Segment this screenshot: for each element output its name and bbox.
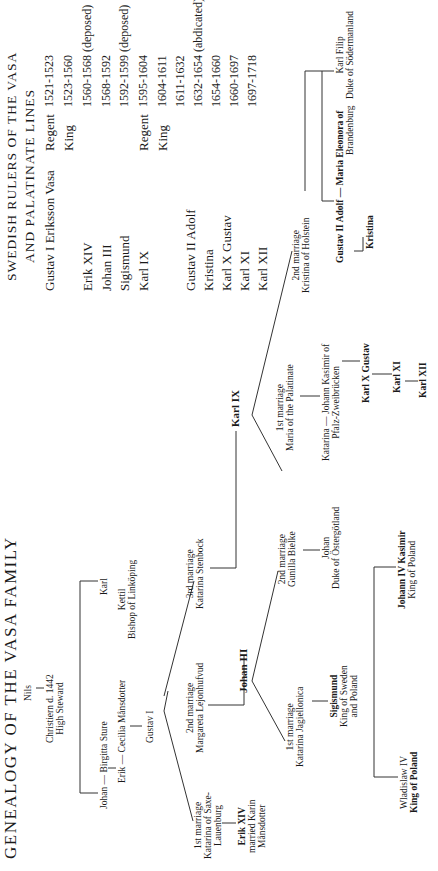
node-karl: Karl: [100, 578, 110, 595]
ruler-name: Kristina: [201, 249, 217, 291]
ruler-name: Erik XIV: [80, 242, 96, 291]
ruler-role: King: [155, 125, 171, 151]
ruler-years: 1521-1523: [42, 55, 57, 107]
ruler-name: Karl XI: [237, 251, 253, 291]
ruler-years: 1604-1611: [155, 55, 170, 107]
ruler-years: 1660-1697: [227, 55, 242, 107]
ruler-role: King: [61, 125, 77, 151]
node-johan-iii: Johan III: [238, 649, 250, 693]
node-christiern: Christiern d. 1442 High Steward: [46, 674, 66, 743]
ruler-name: Gustav I Eriksson Vasa: [42, 170, 58, 291]
ruler-name: Johan III: [99, 244, 115, 291]
node-nils: Nils: [24, 685, 34, 701]
node-erik-xiv: Erik XIV married Karin Månsdotter: [238, 799, 268, 853]
node-johan-duke: Johan Duke of Östergötland: [322, 507, 342, 589]
rulers-heading-1: SWEDISH RULERS OF THE VASA: [4, 52, 20, 281]
ruler-name: Gustav II Adolf: [183, 209, 199, 291]
node-kristina: Kristina: [366, 215, 376, 249]
node-karl-xi: Karl XI: [393, 361, 403, 393]
ruler-name: Karl XII: [255, 247, 271, 291]
ruler-years: 1632-1654 (abdicated): [191, 0, 206, 107]
node-karl-marriage-2: 2nd marriage Kristina of Holstein: [292, 218, 312, 293]
node-karl-marriage-1: 1st marriage Maria of the Palatinate: [276, 364, 296, 451]
node-gustav-marriage-3: 3rd marriage Katarina Stenbock: [186, 539, 206, 609]
ruler-years: 1611-1632: [173, 55, 188, 107]
ruler-name: Sigismund: [117, 235, 133, 291]
node-sigismund: Sigismund King of Sweden and Poland: [330, 665, 360, 727]
ruler-years: 1568-1592: [99, 55, 114, 107]
node-karl-ix: Karl IX: [230, 390, 242, 427]
node-johann-kasimir-poland: Johann IV Kasimir King of Poland: [398, 531, 418, 609]
node-johan-birgitta: Johan — Birgitta Sture: [100, 721, 110, 809]
node-erik-cecilia: Erik — Cecilia Månsdotter: [118, 680, 128, 783]
ruler-role: Regent: [42, 114, 58, 151]
node-johan-marriage-1: 1st marriage Katarina Jagiellonica: [286, 687, 306, 767]
node-gustav-marriage-1: 1st marriage Katarina of Saxe- Lauenburg: [194, 792, 224, 859]
ruler-years: 1697-1718: [245, 55, 260, 107]
rotated-page: GENEALOGY OF THE VASA FAMILY: [0, 0, 438, 871]
node-johan-marriage-2: 2nd marriage Gunilla Bielke: [278, 531, 298, 587]
node-wladislaw: Wladislaw IV King of Poland: [400, 752, 420, 813]
node-katarina-johann: Katarina — Johann Kasimir of Pfalz-Zweib…: [322, 344, 342, 461]
ruler-years: 1592-1599 (deposed): [117, 5, 132, 107]
ruler-name: Karl X Gustav: [219, 215, 235, 291]
ruler-role: Regent: [136, 114, 152, 151]
ruler-name: Karl IX: [136, 251, 152, 291]
node-karl-x: Karl X Gustav: [362, 343, 372, 403]
ruler-years: 1560-1568 (deposed): [80, 5, 95, 107]
rulers-heading-2: AND PALATINATE LINES: [22, 89, 38, 263]
ruler-years: 1654-1660: [209, 55, 224, 107]
ruler-years: 1523-1560: [61, 55, 76, 107]
node-gustav-ii: Gustav II Adolf — Maria Eleonora of Bran…: [336, 106, 356, 263]
node-gustav-marriage-2: 2nd marriage Margareta Lejonhufvud: [186, 663, 206, 753]
node-karl-xii: Karl XII: [419, 362, 429, 398]
node-karl-filip: Karl Filip Duke of Södermanland: [336, 11, 356, 99]
node-gustav-i: Gustav I: [146, 711, 156, 743]
node-kettil: Kettil Bishop of Linköping: [118, 560, 138, 639]
ruler-years: 1595-1604: [136, 55, 151, 107]
